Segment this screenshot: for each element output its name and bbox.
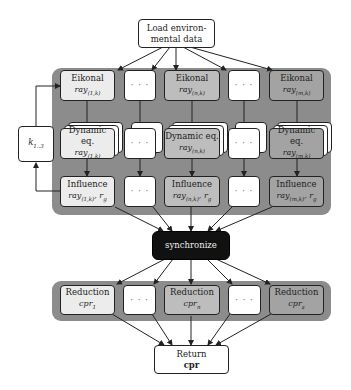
ray-sub: (m,k) bbox=[296, 153, 311, 159]
ellipsis-reduction-b: · · · bbox=[228, 285, 261, 315]
load-line1: Load environ- bbox=[147, 23, 207, 34]
ray-sub: (m,k) bbox=[290, 195, 305, 201]
ellipsis-eikonal-a: · · · bbox=[124, 70, 156, 101]
ray-var: ray bbox=[283, 148, 296, 157]
eikonal-node-m: Eikonal ray(m,k) bbox=[269, 70, 324, 101]
ray-var: ray bbox=[75, 148, 88, 157]
ray-var: ray bbox=[179, 143, 192, 152]
influence-node-n: Influence ray(n,k), rg bbox=[164, 176, 220, 207]
ray-sub: (m,k) bbox=[296, 89, 311, 95]
dyn-label: Dynamic eq. bbox=[165, 131, 219, 142]
eikonal-node-1: Eikonal ray(1,k) bbox=[60, 70, 115, 101]
ellipsis-influence-a: · · · bbox=[124, 176, 156, 207]
iteration-k-node: k1..3 bbox=[18, 126, 54, 162]
ellipsis-dyn-b: · · · bbox=[228, 128, 260, 159]
load-line2: mental data bbox=[151, 34, 202, 45]
influence-label: Influence bbox=[276, 179, 316, 190]
ray-var: ray bbox=[75, 85, 88, 94]
ray-sub: (1,k) bbox=[81, 195, 94, 201]
ray-sub: (n,k) bbox=[186, 195, 199, 201]
reduction-node-n: Reduction cprn bbox=[164, 285, 220, 315]
rg-var: , r bbox=[94, 191, 103, 200]
ellipsis-eikonal-b: · · · bbox=[228, 70, 260, 101]
reduction-node-1: Reduction cpr1 bbox=[60, 285, 115, 315]
dyn-label: Dynamic eq. bbox=[61, 125, 114, 147]
rg-sub: g bbox=[208, 195, 212, 201]
ellipsis-influence-b: · · · bbox=[228, 176, 260, 207]
k-sub: 1..3 bbox=[33, 142, 44, 148]
eikonal-label: Eikonal bbox=[71, 73, 103, 84]
return-cpr-node: Return cpr bbox=[154, 345, 229, 374]
ray-var: ray bbox=[276, 191, 289, 200]
cpr-label: cpr bbox=[184, 360, 200, 371]
ray-var: ray bbox=[173, 191, 186, 200]
dynamic-eq-node-1: Dynamic eq. ray(1,k) bbox=[60, 128, 115, 159]
ray-sub: (n,k) bbox=[192, 89, 205, 95]
return-label: Return bbox=[177, 349, 207, 360]
ellipsis-reduction-a: · · · bbox=[123, 285, 156, 315]
eikonal-label: Eikonal bbox=[176, 73, 208, 84]
influence-node-m: Influence ray(m,k), rg bbox=[269, 176, 324, 207]
ray-var: ray bbox=[68, 191, 81, 200]
eikonal-node-n: Eikonal ray(n,k) bbox=[164, 70, 220, 101]
rg-var: , r bbox=[304, 191, 313, 200]
reduction-label: Reduction bbox=[66, 287, 110, 298]
influence-label: Influence bbox=[67, 179, 107, 190]
dyn-label: Dynamic eq. bbox=[270, 125, 323, 147]
ray-sub: (n,k) bbox=[192, 147, 205, 153]
synchronize-label: synchronize bbox=[165, 240, 217, 251]
eikonal-label: Eikonal bbox=[280, 73, 312, 84]
reduction-node-z: Reduction cprz bbox=[269, 285, 324, 315]
reduction-label: Reduction bbox=[275, 287, 319, 298]
load-environmental-data-node: Load environ- mental data bbox=[138, 19, 215, 48]
ray-var: ray bbox=[283, 85, 296, 94]
dynamic-eq-node-n: Dynamic eq. ray(n,k) bbox=[164, 128, 220, 159]
ray-sub: (1,k) bbox=[88, 89, 101, 95]
ray-sub: (1,k) bbox=[88, 153, 101, 159]
rg-var: , r bbox=[199, 191, 208, 200]
cpr-sub: z bbox=[302, 304, 305, 310]
influence-label: Influence bbox=[172, 179, 212, 190]
ray-var: ray bbox=[179, 85, 192, 94]
synchronize-node: synchronize bbox=[152, 231, 230, 260]
rg-sub: g bbox=[103, 195, 107, 201]
cpr-var: cpr bbox=[79, 299, 92, 308]
cpr-sub: n bbox=[197, 304, 201, 310]
dynamic-eq-node-m: Dynamic eq. ray(m,k) bbox=[269, 128, 324, 159]
cpr-var: cpr bbox=[288, 299, 301, 308]
cpr-sub: 1 bbox=[92, 304, 96, 310]
cpr-var: cpr bbox=[184, 299, 197, 308]
reduction-label: Reduction bbox=[170, 287, 214, 298]
influence-node-1: Influence ray(1,k), rg bbox=[60, 176, 115, 207]
rg-sub: g bbox=[313, 195, 317, 201]
ellipsis-dyn-a: · · · bbox=[124, 128, 156, 159]
